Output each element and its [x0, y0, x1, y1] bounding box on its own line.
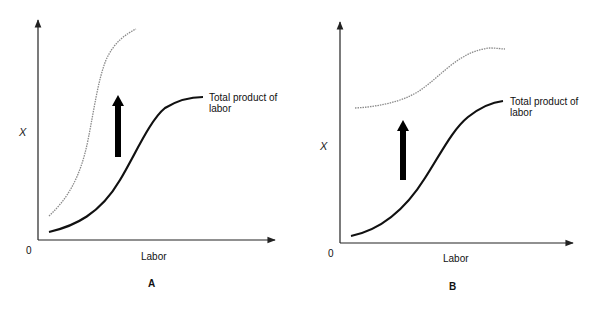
curve-label-line2-b: labor	[510, 107, 533, 118]
curve-label-line1-b: Total product of	[510, 96, 579, 107]
curve-label-line2-a: labor	[209, 103, 232, 114]
panel-letter-b: B	[449, 281, 456, 292]
curve-label-line1-a: Total product of	[209, 92, 278, 103]
panel-a: Total product of labor X 0 Labor A	[18, 20, 278, 289]
x-axis-label-a: Labor	[141, 251, 167, 262]
origin-label-b: 0	[328, 248, 334, 259]
shifted-total-product-curve-b	[355, 48, 505, 108]
diagram-canvas: Total product of labor X 0 Labor A Total…	[0, 0, 597, 312]
origin-label-a: 0	[26, 245, 32, 256]
x-axis-label-b: Labor	[443, 253, 469, 264]
shifted-total-product-curve-a	[49, 29, 136, 216]
total-product-curve-b	[351, 101, 503, 236]
panel-b: Total product of labor X 0 Labor B	[319, 22, 579, 292]
total-product-curve-a	[49, 97, 203, 232]
up-arrow-icon	[112, 95, 124, 157]
y-axis-label-a: X	[18, 126, 27, 138]
y-axis-label-b: X	[319, 140, 328, 152]
up-arrow-icon	[397, 120, 409, 180]
panel-letter-a: A	[148, 278, 155, 289]
